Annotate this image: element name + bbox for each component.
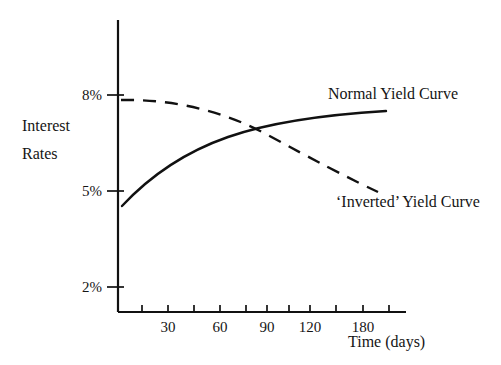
normal-yield-curve-label: Normal Yield Curve — [328, 86, 458, 102]
y-axis-title-line1: Interest — [22, 112, 70, 140]
y-tick-label-2: 2% — [62, 280, 102, 295]
x-tick-label-60: 60 — [200, 320, 240, 335]
y-axis-ticks — [107, 95, 124, 287]
y-axis-title-line2: Rates — [22, 140, 70, 168]
x-tick-label-120: 120 — [289, 320, 331, 335]
x-tick-label-30: 30 — [148, 320, 188, 335]
normal-yield-curve-line — [122, 111, 386, 206]
yield-curve-chart: Interest Rates 8% 5% 2% 30 60 90 120 180… — [0, 0, 501, 365]
chart-plot-area — [0, 0, 501, 365]
y-axis-title: Interest Rates — [22, 112, 70, 168]
inverted-yield-curve-label: ‘Inverted’ Yield Curve — [336, 194, 480, 210]
y-tick-label-8: 8% — [62, 88, 102, 103]
y-tick-label-5: 5% — [62, 184, 102, 199]
x-axis-title: Time (days) — [348, 334, 425, 350]
x-tick-label-90: 90 — [247, 320, 287, 335]
